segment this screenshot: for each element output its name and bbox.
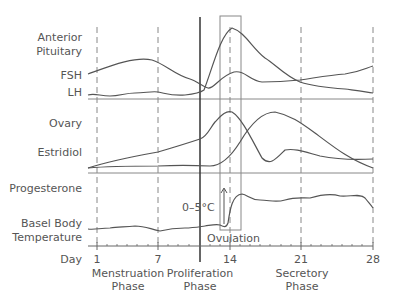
bbt-label-1: Basel Body [21,217,82,230]
fsh-curve [88,59,373,88]
temp-rise-label: 0–5°C [182,201,215,214]
phase-proliferation-line2: Phase [167,280,234,293]
fsh-label: FSH [61,69,82,82]
tick-day-21: 21 [294,253,308,266]
lh-label: LH [68,86,82,99]
tick-day-28: 28 [366,253,380,266]
ovulation-label: Ovulation [207,232,260,245]
tick-day-14: 14 [223,253,237,266]
day-axis-label: Day [60,253,82,266]
tick-day-1: 1 [94,253,101,266]
bbt-label-2: Temperature [12,231,82,244]
ovary-label: Ovary [49,117,82,130]
progesterone-label: Progesterone [9,182,82,195]
anterior-pituitary-label-2: Pituitary [36,45,82,58]
temperature-rise-arrow [221,188,227,224]
phase-menstruation-line1: Menstruation [92,267,165,280]
phase-proliferation-line1: Proliferation [167,267,234,280]
estridiol-label: Estridiol [38,146,82,159]
phase-secretory-line2: Phase [276,280,329,293]
tick-day-7: 7 [155,253,162,266]
phase-menstruation-line2: Phase [92,280,165,293]
anterior-pituitary-label-1: Anterior [38,31,82,44]
phase-proliferation: Proliferation Phase [167,267,234,293]
phase-secretory: Secretory Phase [276,267,329,293]
phase-menstruation: Menstruation Phase [92,267,165,293]
phase-secretory-line1: Secretory [276,267,329,280]
